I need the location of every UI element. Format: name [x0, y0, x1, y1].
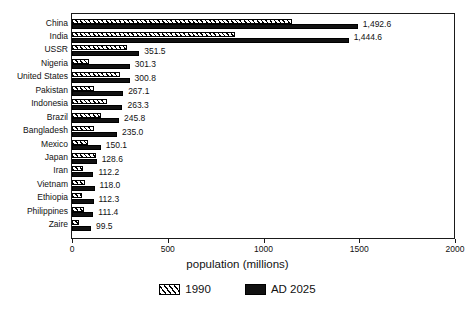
bar-1990 [72, 72, 120, 77]
bar-ad-2025 [72, 186, 95, 191]
bar-ad-2025 [72, 199, 94, 204]
category-label: Zaire [49, 220, 68, 229]
bar-1990 [72, 45, 127, 50]
bar-1990 [72, 140, 88, 145]
category-label: Ethiopia [37, 193, 68, 202]
bar-ad-2025 [72, 51, 139, 56]
bar-1990 [72, 207, 84, 212]
bar-value-label: 267.1 [128, 87, 149, 96]
bar-value-label: 112.2 [98, 168, 119, 177]
bar-value-label: 118.0 [100, 181, 121, 190]
bar-1990 [72, 86, 94, 91]
category-label: Philippines [27, 207, 68, 216]
bar-ad-2025 [72, 105, 122, 110]
bar-ad-2025 [72, 212, 93, 217]
x-tick-label: 1500 [350, 244, 369, 254]
x-tick-mark [264, 239, 265, 243]
bar-ad-2025 [72, 145, 101, 150]
legend-label: 1990 [185, 283, 211, 295]
bar-value-label: 351.5 [144, 47, 165, 56]
x-tick-mark [72, 239, 73, 243]
bar-value-label: 1,444.6 [354, 33, 382, 42]
bar-1990 [72, 99, 107, 104]
bar-ad-2025 [72, 64, 130, 69]
bar-value-label: 111.4 [98, 208, 118, 217]
category-axis-labels: ChinaIndiaUSSRNigeriaUnited StatesPakist… [0, 0, 68, 240]
bar-ad-2025 [72, 172, 93, 177]
bar-1990 [72, 193, 82, 198]
bar-value-label: 245.8 [124, 114, 145, 123]
x-tick-label: 0 [70, 244, 75, 254]
category-label: Indonesia [31, 99, 68, 108]
bar-value-label: 128.6 [102, 155, 123, 164]
category-label: Mexico [41, 140, 68, 149]
hatch-swatch-icon [159, 284, 180, 295]
x-tick-mark [168, 239, 169, 243]
x-tick-label: 1000 [254, 244, 273, 254]
category-label: USSR [44, 45, 68, 54]
category-label: China [46, 19, 68, 28]
bar-value-label: 1,492.6 [363, 20, 391, 29]
bar-value-label: 99.5 [96, 222, 113, 231]
x-axis: 0500100015002000 [0, 239, 475, 245]
bar-value-label: 300.8 [135, 74, 156, 83]
bar-1990 [72, 113, 101, 118]
bar-1990 [72, 180, 85, 185]
bar-ad-2025 [72, 91, 123, 96]
bar-ad-2025 [72, 118, 119, 123]
category-label: United States [17, 72, 68, 81]
category-label: Brazil [47, 113, 68, 122]
bar-value-label: 263.3 [127, 101, 148, 110]
category-label: India [50, 32, 68, 41]
x-tick-mark [455, 239, 456, 243]
category-label: Vietnam [37, 180, 68, 189]
bar-1990 [72, 166, 83, 171]
category-label: Bangladesh [23, 126, 68, 135]
population-bar-chart: ChinaIndiaUSSRNigeriaUnited StatesPakist… [0, 0, 475, 312]
x-axis-title: population (millions) [0, 258, 475, 270]
legend-entry-1990: 1990 [159, 283, 211, 295]
x-tick-mark [359, 239, 360, 243]
bar-1990 [72, 32, 235, 37]
bar-ad-2025 [72, 24, 358, 29]
solid-swatch-icon [245, 284, 266, 295]
x-tick-label: 500 [161, 244, 175, 254]
bar-value-label: 301.3 [135, 60, 156, 69]
bar-ad-2025 [72, 38, 349, 43]
bar-1990 [72, 126, 94, 131]
bar-ad-2025 [72, 159, 97, 164]
category-label: Japan [45, 153, 68, 162]
bar-ad-2025 [72, 226, 91, 231]
bar-1990 [72, 59, 89, 64]
bar-ad-2025 [72, 132, 117, 137]
category-label: Iran [53, 166, 68, 175]
bar-1990 [72, 153, 96, 158]
chart-legend: 1990 AD 2025 [0, 283, 475, 295]
bar-value-label: 112.3 [99, 195, 120, 204]
bar-1990 [72, 19, 292, 24]
bar-value-label: 150.1 [106, 141, 127, 150]
bar-ad-2025 [72, 78, 130, 83]
legend-entry-ad-2025: AD 2025 [245, 283, 316, 295]
bar-1990 [72, 220, 79, 225]
legend-label: AD 2025 [271, 283, 316, 295]
category-label: Pakistan [35, 86, 68, 95]
x-tick-label: 2000 [446, 244, 465, 254]
bar-value-label: 235.0 [122, 128, 143, 137]
category-label: Nigeria [41, 59, 68, 68]
bars-layer: 1,492.61,444.6351.5301.3300.8267.1263.32… [72, 14, 455, 238]
